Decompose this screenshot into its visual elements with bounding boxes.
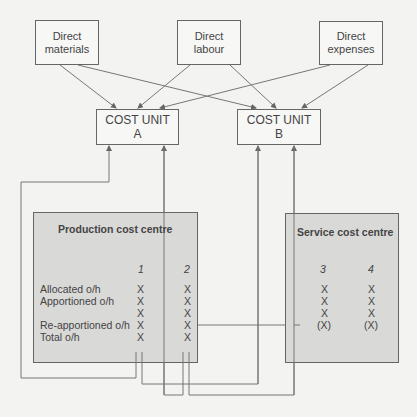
production-col1-header: 1 [138, 263, 144, 275]
s3-r1: X [321, 283, 328, 295]
s4-r4: (X) [364, 319, 378, 331]
overlay-lines [0, 0, 417, 417]
service-col3-header: 3 [320, 263, 326, 275]
production-title: Production cost centre [58, 223, 172, 235]
s4-r3: X [368, 307, 375, 319]
production-col2-header: 2 [184, 263, 190, 275]
row-label-allocated: Allocated o/h [40, 283, 101, 295]
p2-r4: X [184, 319, 191, 331]
p1-r4: X [137, 319, 144, 331]
s4-r2: X [368, 295, 375, 307]
p2-r3: X [184, 307, 191, 319]
p1-r3: X [137, 307, 144, 319]
p2-r1: X [184, 283, 191, 295]
p1-r2: X [137, 295, 144, 307]
p2-r5: X [184, 331, 191, 343]
service-title: Service cost centre [297, 226, 393, 238]
row-label-reapportioned: Re-apportioned o/h [40, 319, 130, 331]
p1-r1: X [137, 283, 144, 295]
row-label-total: Total o/h [40, 331, 80, 343]
s4-r1: X [368, 283, 375, 295]
row-label-apportioned: Apportioned o/h [40, 295, 114, 307]
service-col4-header: 4 [368, 263, 374, 275]
s3-r2: X [321, 295, 328, 307]
p1-r5: X [137, 331, 144, 343]
s3-r3: X [321, 307, 328, 319]
p2-r2: X [184, 295, 191, 307]
s3-r4: (X) [317, 319, 331, 331]
